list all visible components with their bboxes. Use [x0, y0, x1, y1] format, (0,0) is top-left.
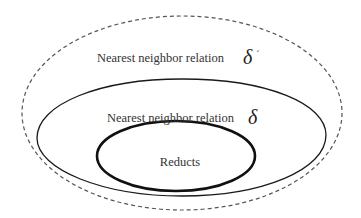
outer-set-prime: ´ — [256, 48, 260, 60]
nested-sets-diagram: Nearest neighbor relation δ ´ Nearest ne… — [0, 0, 361, 218]
middle-set-symbol: δ — [248, 106, 258, 128]
outer-set-label: Nearest neighbor relation — [97, 51, 225, 65]
outer-set-symbol: δ — [243, 46, 253, 68]
middle-set-label: Nearest neighbor relation — [107, 111, 235, 125]
middle-set-boundary — [37, 79, 326, 196]
inner-set-label: Reducts — [160, 155, 200, 169]
